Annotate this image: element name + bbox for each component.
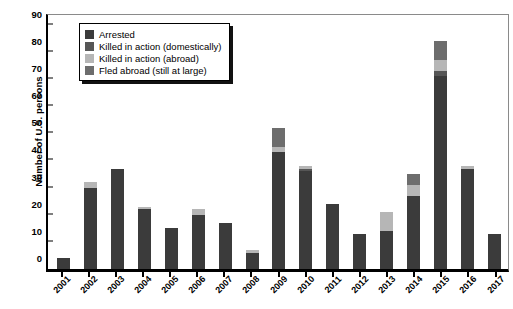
chart-figure: Number of U.S. persons 01020304050607080… xyxy=(0,0,513,309)
x-axis-label-slot: 2012 xyxy=(346,279,373,309)
bar-segment xyxy=(434,41,447,60)
y-axis-tick-label: 30 xyxy=(31,171,42,182)
legend-item-label: Killed in action (domestically) xyxy=(99,41,222,52)
stacked-bar[interactable] xyxy=(380,212,393,269)
x-axis-label-slot: 2001 xyxy=(48,279,75,309)
bar-slot xyxy=(292,15,319,269)
bar-segment xyxy=(138,209,151,269)
bar-slot xyxy=(239,15,266,269)
bar-segment xyxy=(192,215,205,269)
bar-segment xyxy=(488,234,501,269)
bar-slot xyxy=(346,15,373,269)
stacked-bar[interactable] xyxy=(111,169,124,269)
bar-segment xyxy=(380,231,393,269)
bar-slot xyxy=(50,15,77,269)
legend-item-label: Killed in action (abroad) xyxy=(99,53,199,64)
legend-swatch-icon xyxy=(85,42,94,51)
legend-item[interactable]: Killed in action (domestically) xyxy=(85,40,222,52)
bar-slot xyxy=(266,15,293,269)
legend-item[interactable]: Fled abroad (still at large) xyxy=(85,64,222,76)
y-axis-tick-label: 90 xyxy=(31,8,42,19)
stacked-bar[interactable] xyxy=(246,250,259,269)
y-axis-tick-label: 50 xyxy=(31,117,42,128)
bar-segment xyxy=(407,196,420,269)
y-axis-tick-label: 40 xyxy=(31,144,42,155)
bar-segment xyxy=(272,152,285,269)
bar-segment xyxy=(246,253,259,269)
x-axis-label-slot: 2007 xyxy=(211,279,238,309)
legend-swatch-icon xyxy=(85,30,94,39)
x-axis-label-slot: 2002 xyxy=(75,279,102,309)
stacked-bar[interactable] xyxy=(138,207,151,269)
legend-swatch-icon xyxy=(85,54,94,63)
bar-segment xyxy=(84,188,97,269)
y-axis-tick-label: 70 xyxy=(31,62,42,73)
stacked-bar[interactable] xyxy=(461,166,474,269)
x-axis-label-slot: 2015 xyxy=(428,279,455,309)
bar-segment xyxy=(326,204,339,269)
x-axis-label-slot: 2009 xyxy=(265,279,292,309)
x-axis-label-slot: 2011 xyxy=(319,279,346,309)
bar-segment xyxy=(461,169,474,269)
bar-slot xyxy=(427,15,454,269)
x-axis-label-slot: 2005 xyxy=(157,279,184,309)
x-axis-label-slot: 2008 xyxy=(238,279,265,309)
bar-segment xyxy=(219,223,232,269)
stacked-bar[interactable] xyxy=(434,41,447,269)
legend-swatch-icon xyxy=(85,66,94,75)
stacked-bar[interactable] xyxy=(192,209,205,269)
x-axis-label-slot: 2010 xyxy=(292,279,319,309)
stacked-bar[interactable] xyxy=(57,258,70,269)
bar-segment xyxy=(353,234,366,269)
chart-legend: ArrestedKilled in action (domestically)K… xyxy=(79,23,230,81)
stacked-bar[interactable] xyxy=(272,128,285,269)
bar-segment xyxy=(434,60,447,71)
stacked-bar[interactable] xyxy=(353,234,366,269)
bar-segment xyxy=(299,171,312,269)
stacked-bar[interactable] xyxy=(488,234,501,269)
x-axis-label-slot: 2013 xyxy=(374,279,401,309)
legend-item-label: Fled abroad (still at large) xyxy=(99,65,207,76)
bar-segment xyxy=(57,258,70,269)
bar-segment xyxy=(165,228,178,269)
stacked-bar[interactable] xyxy=(84,182,97,269)
stacked-bar[interactable] xyxy=(326,204,339,269)
y-axis-tick-label: 20 xyxy=(31,198,42,209)
bar-segment xyxy=(434,76,447,269)
legend-item[interactable]: Arrested xyxy=(85,28,222,40)
stacked-bar[interactable] xyxy=(299,166,312,269)
legend-item[interactable]: Killed in action (abroad) xyxy=(85,52,222,64)
x-axis-labels: 2001200220032004200520062007200820092010… xyxy=(48,279,509,309)
x-axis-label-slot: 2003 xyxy=(102,279,129,309)
bar-segment xyxy=(272,128,285,147)
bar-segment xyxy=(111,169,124,269)
bar-slot xyxy=(454,15,481,269)
x-axis-label-slot: 2017 xyxy=(482,279,509,309)
bar-segment xyxy=(407,185,420,196)
legend-item-label: Arrested xyxy=(99,29,135,40)
stacked-bar[interactable] xyxy=(165,228,178,269)
x-axis-label-slot: 2016 xyxy=(455,279,482,309)
y-axis-tick-label: 60 xyxy=(31,90,42,101)
bar-slot xyxy=(373,15,400,269)
bar-slot xyxy=(481,15,508,269)
stacked-bar[interactable] xyxy=(407,174,420,269)
bar-segment xyxy=(380,212,393,231)
y-axis-tick-label: 10 xyxy=(31,225,42,236)
y-axis-tick-label: 0 xyxy=(37,253,42,264)
bar-segment xyxy=(407,174,420,185)
bar-slot xyxy=(319,15,346,269)
y-axis-tick-label: 80 xyxy=(31,35,42,46)
x-axis-label-slot: 2014 xyxy=(401,279,428,309)
bar-slot xyxy=(400,15,427,269)
x-axis-label-slot: 2006 xyxy=(184,279,211,309)
stacked-bar[interactable] xyxy=(219,223,232,269)
x-axis-label-slot: 2004 xyxy=(129,279,156,309)
